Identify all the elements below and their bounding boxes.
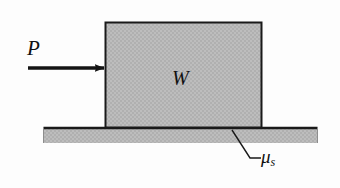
diagram-canvas (0, 0, 340, 188)
mu-subscript-s: s (271, 155, 276, 169)
mu-symbol: μ (261, 146, 271, 167)
ground-surface-group (44, 128, 318, 144)
friction-coefficient-label: μs (261, 147, 275, 168)
friction-block-diagram: P W μs (0, 0, 340, 188)
force-label-P: P (27, 38, 40, 59)
ground-surface (44, 128, 318, 144)
weight-label-W: W (172, 68, 189, 88)
